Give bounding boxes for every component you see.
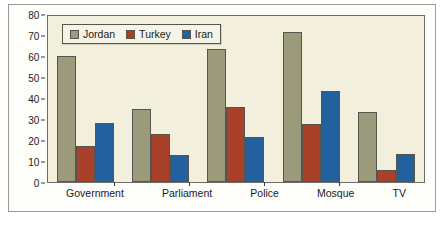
bar-group bbox=[132, 16, 189, 182]
x-axis-category-label: Government bbox=[66, 187, 124, 199]
bar-turkey[interactable] bbox=[226, 107, 245, 182]
x-axis-tick-mark bbox=[189, 182, 190, 186]
bars-area bbox=[48, 16, 424, 182]
plot-area: JordanTurkeyIran bbox=[47, 15, 425, 183]
bar-group bbox=[358, 16, 415, 182]
bar-iran[interactable] bbox=[396, 154, 415, 182]
y-axis: 01020304050607080 bbox=[17, 15, 45, 183]
y-axis-tick-label: 40 bbox=[28, 94, 39, 105]
bar-jordan[interactable] bbox=[358, 112, 377, 182]
y-axis-tick-mark bbox=[41, 57, 45, 58]
bar-iran[interactable] bbox=[95, 123, 114, 182]
bar-iran[interactable] bbox=[245, 137, 264, 182]
y-axis-tick-mark bbox=[41, 183, 45, 184]
chart-figure-frame: 01020304050607080 JordanTurkeyIran Gover… bbox=[8, 4, 436, 212]
y-axis-tick-mark bbox=[41, 15, 45, 16]
bar-jordan[interactable] bbox=[57, 56, 76, 182]
y-axis-tick-mark bbox=[41, 120, 45, 121]
x-axis-category-label: Parliament bbox=[162, 187, 212, 199]
x-axis-category-label: TV bbox=[393, 187, 406, 199]
y-axis-tick-mark bbox=[41, 78, 45, 79]
y-axis-tick-label: 10 bbox=[28, 157, 39, 168]
y-axis-tick-mark bbox=[41, 162, 45, 163]
x-axis-tick-mark bbox=[114, 182, 115, 186]
bar-turkey[interactable] bbox=[151, 134, 170, 182]
bar-group bbox=[207, 16, 264, 182]
y-axis-tick-label: 70 bbox=[28, 31, 39, 42]
x-axis-category-label: Police bbox=[250, 187, 279, 199]
y-axis-tick-label: 60 bbox=[28, 52, 39, 63]
bar-group bbox=[57, 16, 114, 182]
x-axis-tick-mark bbox=[339, 182, 340, 186]
bar-group bbox=[283, 16, 340, 182]
x-axis-category-label: Mosque bbox=[317, 187, 354, 199]
bar-iran[interactable] bbox=[170, 155, 189, 182]
bar-iran[interactable] bbox=[321, 91, 340, 182]
y-axis-tick-label: 0 bbox=[34, 178, 39, 189]
bar-turkey[interactable] bbox=[302, 124, 321, 182]
y-axis-tick-label: 80 bbox=[28, 10, 39, 21]
y-axis-tick-mark bbox=[41, 99, 45, 100]
y-axis-tick-mark bbox=[41, 141, 45, 142]
y-axis-tick-label: 20 bbox=[28, 136, 39, 147]
y-axis-tick-mark bbox=[41, 36, 45, 37]
y-axis-tick-label: 50 bbox=[28, 73, 39, 84]
x-axis-tick-mark bbox=[264, 182, 265, 186]
bar-turkey[interactable] bbox=[76, 146, 95, 182]
bar-jordan[interactable] bbox=[207, 49, 226, 182]
bar-turkey[interactable] bbox=[377, 170, 396, 182]
bar-jordan[interactable] bbox=[283, 32, 302, 182]
y-axis-tick-label: 30 bbox=[28, 115, 39, 126]
x-axis: GovernmentParliamentPoliceMosqueTV bbox=[47, 187, 425, 199]
bar-jordan[interactable] bbox=[132, 109, 151, 183]
